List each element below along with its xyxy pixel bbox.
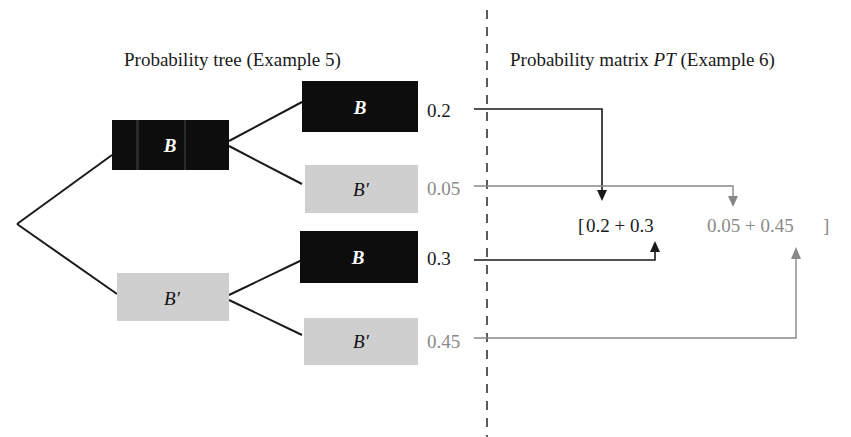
leaf-value-0-45: 0.45: [427, 331, 460, 352]
svg-text:B′: B′: [164, 288, 181, 309]
left-title: Probability tree (Example 5): [124, 49, 341, 71]
tree-node-b-2: B: [300, 231, 418, 283]
svg-text:B: B: [163, 135, 177, 156]
leaf-value-0-3: 0.3: [427, 248, 451, 269]
tree-node-b-1: B: [302, 81, 418, 132]
matrix-left-entry: 0.2 + 0.3: [586, 215, 654, 236]
svg-text:B: B: [351, 247, 365, 268]
connector-0-05: [474, 186, 738, 207]
right-title: Probability matrix PT (Example 6): [510, 49, 775, 71]
probability-matrix: [ 0.2 + 0.3 0.05 + 0.45 ]: [578, 215, 829, 236]
matrix-close-bracket: ]: [823, 215, 829, 236]
tree-node-b-level1: B: [112, 120, 229, 170]
tree-node-bprime-level1: B′: [117, 273, 229, 321]
probability-diagram: Probability tree (Example 5) Probability…: [0, 0, 851, 437]
connector-0-2: [474, 109, 607, 201]
tree-node-bprime-2: B′: [304, 318, 418, 365]
matrix-right-entry: 0.05 + 0.45: [707, 215, 794, 236]
leaf-value-0-2: 0.2: [427, 100, 451, 121]
matrix-open-bracket: [: [578, 215, 584, 236]
svg-text:B′: B′: [353, 179, 370, 200]
tree-node-bprime-1: B′: [305, 165, 418, 213]
leaf-value-0-05: 0.05: [427, 178, 460, 199]
svg-text:B: B: [353, 97, 367, 118]
svg-text:B′: B′: [353, 331, 370, 352]
connector-0-3: [474, 241, 660, 260]
